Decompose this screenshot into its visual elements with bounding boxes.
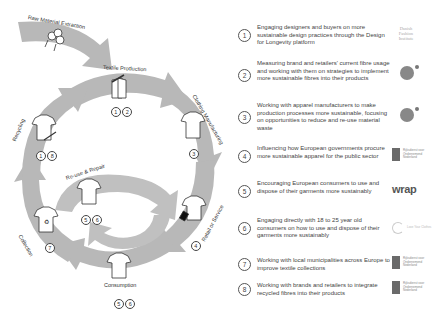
number-badge: 7	[45, 243, 55, 253]
number-badge: 2	[122, 107, 132, 117]
number-badge: 6	[125, 299, 135, 309]
stage-numbers-recycling: 18	[35, 144, 58, 162]
initiatives-legend: 1 Engaging designers and buyers on more …	[232, 0, 439, 315]
number-badge: 8	[47, 151, 57, 161]
number-badge: 7	[238, 258, 251, 271]
number-badge: 6	[238, 222, 251, 235]
circular-economy-diagram: ♻ Raw Material Extraction Textile Produc…	[0, 0, 230, 315]
number-badge: 1	[111, 107, 121, 117]
number-badge: 2	[238, 69, 251, 82]
face-logo	[392, 66, 437, 80]
government-logo: Rijksdienst voor Ondernemend Nederland	[392, 281, 437, 294]
legend-text: Influencing how European governments pro…	[257, 145, 392, 160]
number-badge: 5	[114, 299, 124, 309]
number-badge: 3	[238, 111, 251, 124]
face-logo	[392, 108, 437, 122]
legend-text: Engaging directly with 18 to 25 year old…	[257, 217, 392, 240]
svg-text:♻: ♻	[44, 219, 49, 225]
number-badge: 1	[36, 151, 46, 161]
stage-label-consumption: Consumption	[104, 282, 136, 288]
wrap-logo: wrap	[392, 183, 437, 195]
government-logo: Rijksdienst voor Ondernemend Nederland	[392, 256, 437, 269]
number-badge: 6	[92, 215, 102, 225]
number-badge: 1	[238, 29, 251, 42]
stage-numbers-retail: 4	[190, 234, 202, 252]
number-badge: 4	[238, 150, 251, 163]
number-badge: 8	[238, 283, 251, 296]
government-logo: Rijksdienst voor Ondernemend Nederland	[392, 148, 437, 161]
legend-text: Working with apparel manufacturers to ma…	[257, 102, 392, 132]
stage-numbers-consumption: 56	[113, 292, 136, 310]
legend-text: Encouraging European consumers to use an…	[257, 180, 392, 195]
stage-numbers-textile: 12	[110, 100, 133, 118]
number-badge: 4	[191, 241, 201, 251]
legend-text: Working with local municipalities across…	[257, 257, 392, 272]
stage-numbers-manufacturing: 3	[188, 142, 200, 160]
legend-text: Measuring brand and retailers' current f…	[257, 60, 392, 83]
legend-text: Engaging designers and buyers on more su…	[257, 24, 392, 47]
stage-numbers-collection: 7	[44, 236, 56, 254]
legend-text: Working with brands and retailers to int…	[257, 282, 392, 297]
number-badge: 3	[189, 149, 199, 159]
number-badge: 5	[238, 185, 251, 198]
dfi-logo: DanishFashionInstitute	[392, 26, 437, 41]
number-badge: 5	[81, 215, 91, 225]
stage-numbers-reuse: 56	[80, 208, 103, 226]
love-your-clothes-logo: Love Your Clothes	[392, 222, 437, 234]
